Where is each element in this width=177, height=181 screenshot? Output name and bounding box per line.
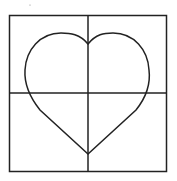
stray-dot bbox=[29, 4, 30, 5]
diagram-canvas bbox=[0, 0, 177, 181]
